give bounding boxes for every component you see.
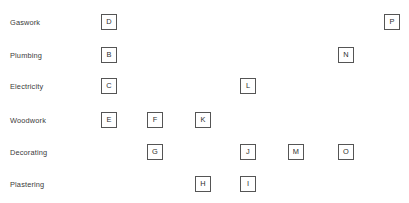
task-box-m[interactable]: M bbox=[288, 144, 304, 160]
task-box-label: C bbox=[102, 79, 116, 93]
task-box-label: E bbox=[102, 113, 116, 127]
task-box-g[interactable]: G bbox=[147, 144, 163, 160]
row-label-gaswork: Gaswork bbox=[10, 18, 40, 27]
row-label-decorating: Decorating bbox=[10, 148, 47, 157]
task-box-b[interactable]: B bbox=[101, 47, 117, 63]
task-box-o[interactable]: O bbox=[338, 144, 354, 160]
task-box-label: O bbox=[339, 145, 353, 159]
task-box-label: N bbox=[339, 48, 353, 62]
row-label-plastering: Plastering bbox=[10, 180, 44, 189]
task-box-c[interactable]: C bbox=[101, 78, 117, 94]
task-box-label: I bbox=[241, 177, 255, 191]
task-box-f[interactable]: F bbox=[147, 112, 163, 128]
task-box-j[interactable]: J bbox=[240, 144, 256, 160]
task-box-h[interactable]: H bbox=[195, 176, 211, 192]
task-box-label: F bbox=[148, 113, 162, 127]
task-box-label: D bbox=[102, 15, 116, 29]
task-box-label: H bbox=[196, 177, 210, 191]
task-box-e[interactable]: E bbox=[101, 112, 117, 128]
task-box-label: J bbox=[241, 145, 255, 159]
task-box-i[interactable]: I bbox=[240, 176, 256, 192]
row-label-electricity: Electricity bbox=[10, 82, 43, 91]
task-box-label: P bbox=[385, 15, 399, 29]
task-box-p[interactable]: P bbox=[384, 14, 400, 30]
task-box-d[interactable]: D bbox=[101, 14, 117, 30]
task-box-label: L bbox=[241, 79, 255, 93]
task-box-l[interactable]: L bbox=[240, 78, 256, 94]
task-box-k[interactable]: K bbox=[195, 112, 211, 128]
row-label-plumbing: Plumbing bbox=[10, 51, 42, 60]
task-box-label: K bbox=[196, 113, 210, 127]
task-box-n[interactable]: N bbox=[338, 47, 354, 63]
task-box-label: B bbox=[102, 48, 116, 62]
schedule-grid-canvas: GasworkPlumbingElectricityWoodworkDecora… bbox=[0, 0, 409, 203]
task-box-label: G bbox=[148, 145, 162, 159]
task-box-label: M bbox=[289, 145, 303, 159]
row-label-woodwork: Woodwork bbox=[10, 116, 46, 125]
